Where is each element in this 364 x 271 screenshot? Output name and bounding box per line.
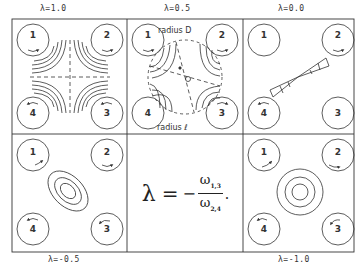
formula-period: . bbox=[225, 186, 229, 202]
svg-text:1: 1 bbox=[145, 30, 151, 40]
formula-minus: − bbox=[182, 184, 195, 203]
svg-text:4: 4 bbox=[261, 108, 267, 118]
radius-d-annotation: radius D bbox=[158, 26, 191, 35]
radius-l-annotation: radius ℓ bbox=[157, 123, 188, 132]
formula-lambda: λ bbox=[142, 181, 156, 206]
svg-text:3: 3 bbox=[335, 224, 341, 234]
svg-text:1: 1 bbox=[30, 30, 36, 40]
svg-text:3: 3 bbox=[219, 108, 225, 118]
svg-text:1: 1 bbox=[261, 147, 267, 157]
formula-denominator: ω2,4 bbox=[200, 194, 221, 216]
svg-text:1: 1 bbox=[261, 30, 267, 40]
formula-equals: = bbox=[162, 182, 179, 206]
svg-text:3: 3 bbox=[335, 108, 341, 118]
svg-text:1: 1 bbox=[30, 147, 36, 157]
svg-text:2: 2 bbox=[104, 147, 110, 157]
svg-text:2: 2 bbox=[104, 30, 110, 40]
svg-text:2: 2 bbox=[219, 30, 225, 40]
svg-text:3: 3 bbox=[104, 224, 110, 234]
formula-fraction: ω1,3 ω2,4 bbox=[198, 172, 223, 215]
svg-text:4: 4 bbox=[30, 108, 36, 118]
svg-text:2: 2 bbox=[335, 147, 341, 157]
svg-text:3: 3 bbox=[104, 108, 110, 118]
formula-numerator: ω1,3 bbox=[198, 172, 223, 194]
svg-text:4: 4 bbox=[261, 224, 267, 234]
svg-text:2: 2 bbox=[335, 30, 341, 40]
lambda-formula: λ = − ω1,3 ω2,4 . bbox=[128, 135, 243, 252]
svg-text:4: 4 bbox=[30, 224, 36, 234]
svg-text:4: 4 bbox=[145, 108, 151, 118]
